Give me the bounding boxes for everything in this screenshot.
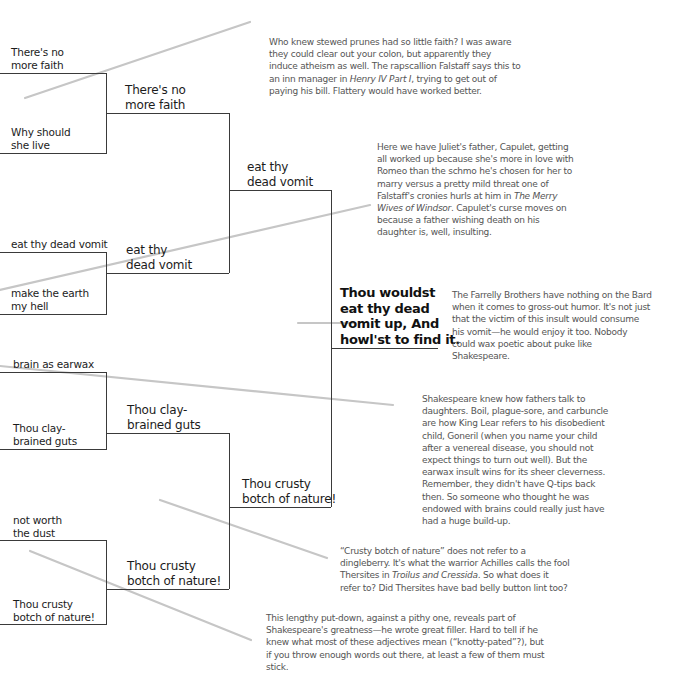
pointer-lines xyxy=(0,22,393,640)
note-text: This lengthy put-down, against a pithy o… xyxy=(266,613,544,672)
entry-line: eat thy dead vomit xyxy=(11,238,108,251)
annotation-faith: Who knew stewed prunes had so little fai… xyxy=(269,36,521,97)
entry-line: the dust xyxy=(13,527,62,540)
entry-line: botch of nature! xyxy=(13,611,95,624)
round1-entry-2: Why should she live xyxy=(11,126,70,152)
entry-line: brained guts xyxy=(13,435,77,448)
winner-line: vomit up, And xyxy=(340,316,460,332)
entry-line: eat thy xyxy=(126,243,192,258)
round1-entry-4: make the earth my hell xyxy=(11,287,89,313)
annotation-farrelly: The Farrelly Brothers have nothing on th… xyxy=(452,289,652,362)
annotation-lear: Shakespeare knew how fathers talk to dau… xyxy=(422,393,612,527)
round1-entry-8: Thou crusty botch of nature! xyxy=(13,598,95,624)
entry-line: make the earth xyxy=(11,287,89,300)
entry-line: botch of nature! xyxy=(127,574,221,589)
entry-line: Thou clay- xyxy=(13,422,77,435)
winner-line: Thou wouldst xyxy=(340,285,460,301)
entry-line: brain as earwax xyxy=(13,358,94,371)
entry-line: eat thy xyxy=(247,160,313,175)
entry-line: dead vomit xyxy=(126,258,192,273)
round1-entry-6: Thou clay- brained guts xyxy=(13,422,77,448)
winner-line: eat thy dead xyxy=(340,301,460,317)
entry-line: brained guts xyxy=(127,418,200,433)
round1-entry-7: not worth the dust xyxy=(13,514,62,540)
round1-entry-1: There's no more faith xyxy=(11,46,64,72)
note-title: Henry IV Part I xyxy=(350,74,412,84)
round2-entry-1: There's no more faith xyxy=(125,83,186,112)
round2-entry-4: Thou crusty botch of nature! xyxy=(127,559,221,588)
entry-line: Thou crusty xyxy=(242,477,336,492)
entry-line: my hell xyxy=(11,300,89,313)
round3-entry-1: eat thy dead vomit xyxy=(247,160,313,189)
round3-entry-2: Thou crusty botch of nature! xyxy=(242,477,336,506)
pointer-crusty xyxy=(160,500,327,558)
note-text: Shakespeare knew how fathers talk to dau… xyxy=(422,394,608,526)
annotation-capulet: Here we have Juliet's father, Capulet, g… xyxy=(377,141,577,239)
round1-entry-3: eat thy dead vomit xyxy=(11,238,108,251)
round2-entry-2: eat thy dead vomit xyxy=(126,243,192,272)
note-title: Troilus and Cressida xyxy=(392,570,478,580)
winner-line: howl'st to find it. xyxy=(340,332,460,348)
round2-entry-3: Thou clay- brained guts xyxy=(127,403,200,432)
entry-line: Thou crusty xyxy=(13,598,95,611)
entry-line: Thou clay- xyxy=(127,403,200,418)
entry-line: Thou crusty xyxy=(127,559,221,574)
entry-line: not worth xyxy=(13,514,62,527)
note-text: The Farrelly Brothers have nothing on th… xyxy=(452,290,652,361)
annotation-crusty: “Crusty botch of nature” does not refer … xyxy=(340,545,570,594)
entry-line: Why should xyxy=(11,126,70,139)
winner-entry: Thou wouldst eat thy dead vomit up, And … xyxy=(340,285,460,347)
entry-line: she live xyxy=(11,139,70,152)
entry-line: There's no xyxy=(11,46,64,59)
bracket xyxy=(0,73,438,624)
entry-line: dead vomit xyxy=(247,175,313,190)
entry-line: more faith xyxy=(11,59,64,72)
entry-line: botch of nature! xyxy=(242,492,336,507)
entry-line: There's no xyxy=(125,83,186,98)
entry-line: more faith xyxy=(125,98,186,113)
annotation-filler: This lengthy put-down, against a pithy o… xyxy=(266,612,546,673)
round1-entry-5: brain as earwax xyxy=(13,358,94,371)
